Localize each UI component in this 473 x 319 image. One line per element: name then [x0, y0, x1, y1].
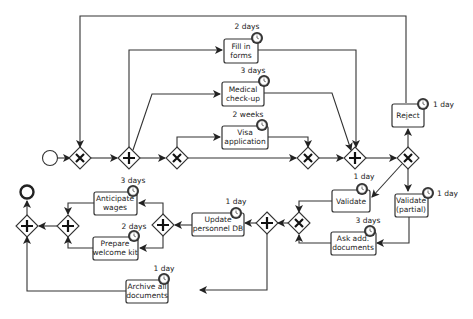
timer-icon	[422, 187, 434, 199]
parallel-gateway-join[interactable]	[344, 147, 366, 169]
svg-text:1 day: 1 day	[433, 100, 455, 109]
svg-text:3 days: 3 days	[356, 216, 381, 225]
end-event[interactable]	[21, 186, 34, 199]
task-validate[interactable]: Validate 1 day	[332, 172, 375, 212]
svg-text:Ask add.: Ask add.	[337, 234, 369, 243]
timer-icon	[364, 225, 376, 237]
task-visa-application[interactable]: Visa application 2 weeks	[222, 110, 268, 149]
task-anticipate-wages[interactable]: Anticipate wages 3 days	[94, 176, 146, 215]
svg-text:Medical: Medical	[229, 85, 258, 94]
svg-text:1 day: 1 day	[354, 172, 376, 181]
svg-text:2 days: 2 days	[122, 222, 147, 231]
svg-text:2 weeks: 2 weeks	[233, 110, 264, 119]
timer-icon	[128, 230, 140, 242]
svg-text:(partial): (partial)	[396, 205, 426, 214]
task-reject[interactable]: Reject 1 day	[392, 98, 455, 127]
task-ask-additional-documents[interactable]: Ask add. documents 3 days	[331, 216, 381, 255]
exclusive-gateway-validate-merge[interactable]	[288, 212, 310, 234]
svg-text:1 day: 1 day	[437, 189, 459, 198]
svg-text:welcome kit: welcome kit	[92, 248, 137, 257]
svg-text:Validate: Validate	[396, 196, 427, 205]
svg-text:Anticipate: Anticipate	[96, 194, 134, 203]
svg-text:1 day: 1 day	[154, 264, 176, 273]
start-event[interactable]	[43, 151, 58, 166]
timer-icon	[230, 207, 242, 219]
svg-text:Prepare: Prepare	[101, 239, 130, 248]
svg-text:3 days: 3 days	[241, 66, 266, 75]
svg-text:Validate: Validate	[336, 197, 367, 206]
parallel-gateway-join-final[interactable]	[16, 215, 38, 237]
task-medical-check-up[interactable]: Medical check-up 3 days	[222, 66, 270, 106]
parallel-gateway-fork2[interactable]	[256, 212, 278, 234]
svg-text:application: application	[224, 137, 266, 146]
svg-text:Reject: Reject	[396, 111, 419, 120]
timer-icon	[256, 119, 268, 131]
svg-text:forms: forms	[230, 51, 251, 60]
timer-icon	[356, 183, 368, 195]
task-prepare-welcome-kit[interactable]: Prepare welcome kit 2 days	[92, 222, 146, 260]
svg-text:1 day: 1 day	[226, 197, 248, 206]
exclusive-gateway-visa-split[interactable]	[166, 147, 188, 169]
parallel-gateway-fork[interactable]	[118, 147, 140, 169]
parallel-gateway-fork3[interactable]	[152, 214, 174, 236]
timer-icon	[258, 75, 270, 87]
parallel-gateway-join3[interactable]	[57, 215, 79, 237]
svg-text:Fill in: Fill in	[231, 42, 250, 51]
timer-icon	[417, 98, 429, 110]
svg-text:check-up: check-up	[226, 94, 260, 103]
task-archive-all-documents[interactable]: Archive all documents 1 day	[126, 264, 175, 303]
timer-icon	[251, 32, 263, 44]
task-fill-in-forms[interactable]: Fill in forms 2 days	[224, 22, 263, 63]
svg-text:Update: Update	[204, 215, 232, 224]
timer-icon	[127, 185, 139, 197]
svg-text:3 days: 3 days	[121, 176, 146, 185]
svg-text:2 days: 2 days	[235, 22, 260, 31]
bpmn-diagram: Fill in forms 2 days Medical check-up 3 …	[0, 0, 473, 319]
svg-text:personnel DB: personnel DB	[193, 224, 243, 233]
exclusive-gateway-visa-merge[interactable]	[297, 147, 319, 169]
svg-text:documents: documents	[332, 243, 374, 252]
svg-text:wages: wages	[103, 203, 127, 212]
task-update-personnel-db[interactable]: Update personnel DB 1 day	[192, 197, 247, 236]
svg-text:Visa: Visa	[237, 128, 253, 137]
exclusive-gateway-merge-start[interactable]	[69, 147, 91, 169]
svg-text:documents: documents	[126, 291, 168, 300]
task-validate-partial[interactable]: Validate (partial) 1 day	[395, 187, 459, 217]
timer-icon	[158, 273, 170, 285]
